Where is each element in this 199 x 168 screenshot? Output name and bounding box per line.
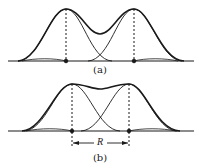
peak-right-a [88,9,182,61]
point-right-b [127,129,131,133]
point-left-a [64,59,68,63]
r-arrowhead-left [73,141,79,145]
point-right-a [132,59,136,63]
separation-label-r: R [97,136,103,147]
panel-a [8,9,194,63]
sum-envelope-b [22,84,180,131]
r-arrowhead-right [122,141,128,145]
caption-a: (a) [80,64,120,75]
point-left-b [70,129,74,133]
peak-left-b [24,84,120,131]
peak-right-b [81,84,177,131]
caption-b: (b) [80,152,120,163]
